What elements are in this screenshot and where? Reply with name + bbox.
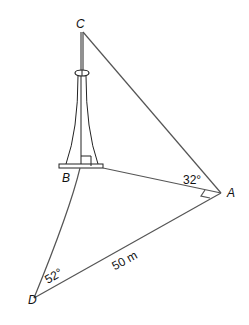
edge-DA xyxy=(34,193,221,298)
tower xyxy=(59,32,103,168)
tower-left-leg xyxy=(66,76,78,164)
right-angle-mark-A xyxy=(201,190,210,198)
tower-base-platform xyxy=(59,164,103,168)
edge-CA xyxy=(83,32,221,193)
diagram-canvas: C B A D 32° 52° 50 m xyxy=(0,0,249,325)
angle-label-A: 32° xyxy=(183,173,201,187)
length-label-DA: 50 m xyxy=(109,248,139,273)
label-D: D xyxy=(28,293,37,307)
label-B: B xyxy=(62,171,70,185)
tower-right-leg xyxy=(86,76,98,164)
label-A: A xyxy=(226,186,235,200)
label-C: C xyxy=(76,17,85,31)
